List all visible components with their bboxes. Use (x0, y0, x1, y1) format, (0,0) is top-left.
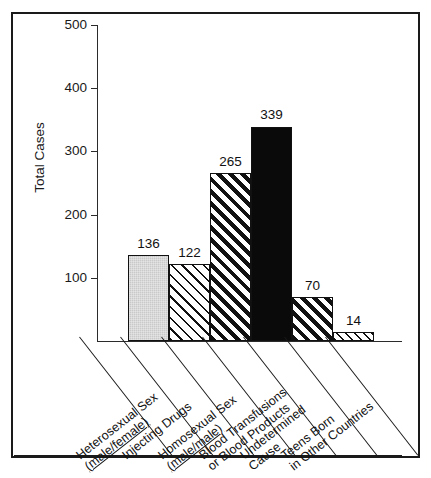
y-tick-label-100: 100 (47, 270, 87, 285)
plot-area: Total Cases 500 400 300 200 100 136 122 (0, 0, 431, 478)
y-tick-100-label-wrap: 100 (41, 270, 87, 286)
bar-value-teens-born-other-countries: 14 (323, 313, 384, 328)
bar-blood-transfusions (251, 127, 292, 342)
bar-homosexual-sex (210, 173, 251, 341)
y-tick-400-label-wrap: 400 (41, 80, 87, 96)
bar-value-undetermined-cause: 70 (282, 278, 343, 293)
y-tick-200-label-wrap: 200 (41, 207, 87, 223)
bar-heterosexual-sex (128, 255, 169, 341)
y-tick-label-200: 200 (47, 207, 87, 222)
category-label-band: Heterosexual Sex (male/female) Injecting… (0, 336, 431, 466)
y-tick-label-400: 400 (47, 80, 87, 95)
y-tick-label-300: 300 (47, 143, 87, 158)
y-tick-label-500: 500 (47, 17, 87, 32)
y-axis-line (97, 25, 98, 342)
y-tick-500-label-wrap: 500 (41, 17, 87, 33)
bar-chart-figure: Total Cases 500 400 300 200 100 136 122 (0, 0, 431, 478)
bar-value-blood-transfusions: 339 (241, 107, 302, 122)
bar-injecting-drugs (169, 264, 210, 341)
y-tick-300-label-wrap: 300 (41, 143, 87, 159)
